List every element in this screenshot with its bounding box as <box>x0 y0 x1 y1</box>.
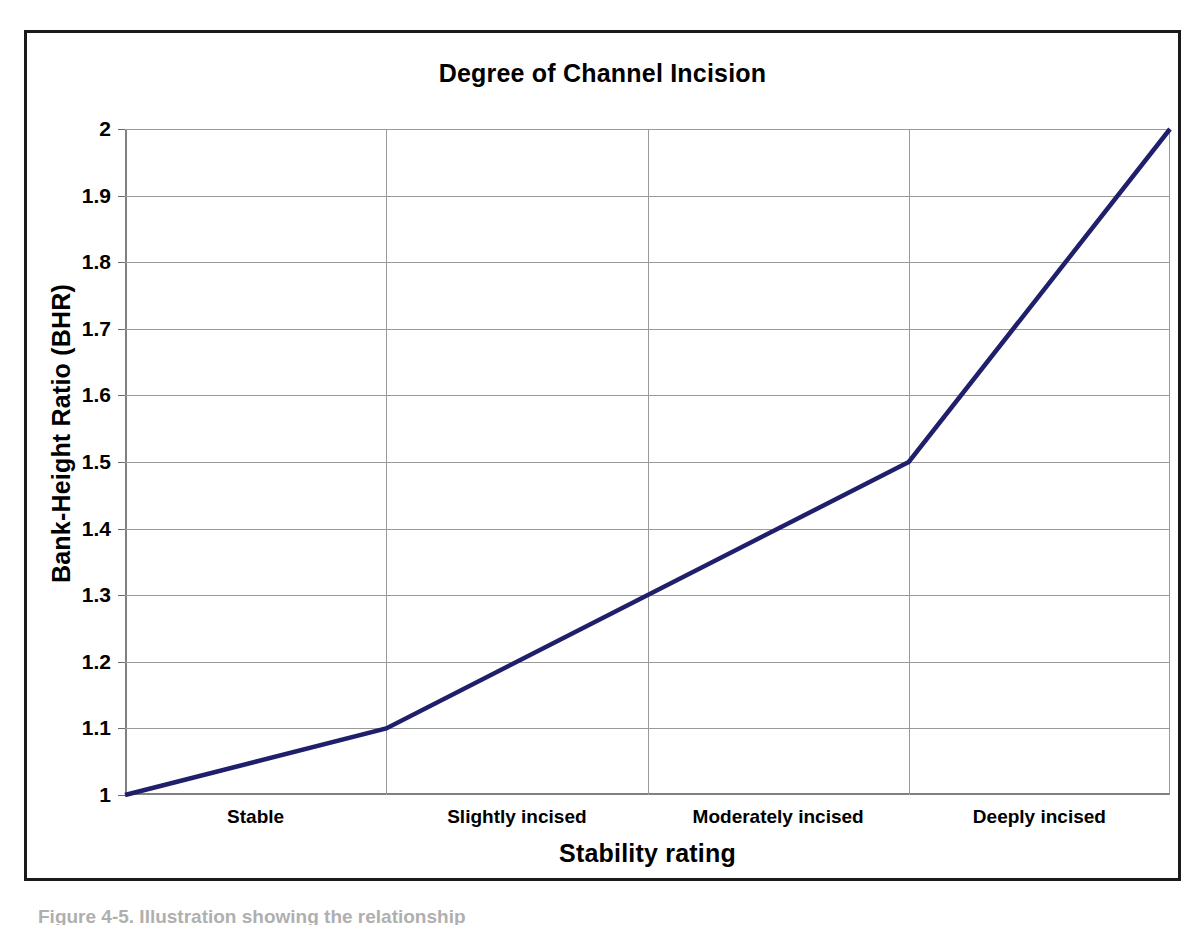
plot-area: 21.91.81.71.61.51.41.31.21.11 StableSlig… <box>125 129 1170 795</box>
y-tick-mark <box>118 129 125 130</box>
figure-frame: Degree of Channel Incision Bank-Height R… <box>24 30 1181 881</box>
y-tick-label: 2 <box>99 117 111 141</box>
x-tick-label: Moderately incised <box>648 806 909 828</box>
y-tick-mark <box>118 728 125 729</box>
data-series-line <box>125 129 1170 795</box>
x-axis-title: Stability rating <box>125 839 1170 868</box>
y-tick-mark <box>118 662 125 663</box>
x-tick-label: Deeply incised <box>909 806 1170 828</box>
y-tick-label: 1.2 <box>82 650 111 674</box>
y-tick-mark <box>118 529 125 530</box>
x-tick-label: Stable <box>125 806 386 828</box>
y-tick-mark <box>118 395 125 396</box>
y-tick-mark <box>118 462 125 463</box>
y-tick-label: 1.6 <box>82 383 111 407</box>
series-polyline <box>125 129 1170 795</box>
y-tick-label: 1.3 <box>82 583 111 607</box>
y-tick-label: 1.4 <box>82 517 111 541</box>
y-tick-mark <box>118 329 125 330</box>
y-tick-mark <box>118 262 125 263</box>
chart-title: Degree of Channel Incision <box>27 59 1178 88</box>
y-tick-mark <box>118 196 125 197</box>
y-tick-label: 1.1 <box>82 716 111 740</box>
y-tick-mark <box>118 595 125 596</box>
y-tick-label: 1.5 <box>82 450 111 474</box>
y-tick-label: 1.8 <box>82 250 111 274</box>
y-tick-label: 1.9 <box>82 184 111 208</box>
y-tick-label: 1 <box>99 783 111 807</box>
figure-caption: Figure 4-5. Illustration showing the rel… <box>38 906 698 925</box>
y-tick-label: 1.7 <box>82 317 111 341</box>
x-tick-label: Slightly incised <box>386 806 647 828</box>
y-tick-mark <box>118 795 125 796</box>
y-axis-title: Bank-Height Ratio (BHR) <box>47 154 76 714</box>
